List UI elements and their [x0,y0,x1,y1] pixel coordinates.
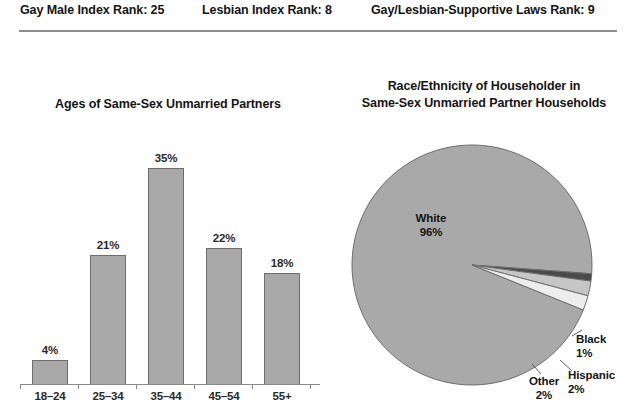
bar-45–54 [206,248,242,385]
pie-slice-label-other: Other 2% [518,374,570,402]
x-axis-tick [20,385,21,389]
bar-value-label: 21% [80,239,136,251]
x-axis-tick [252,385,253,389]
bar-column [80,149,136,385]
header-divider [19,30,617,32]
pie-slice-value-black: 1% [576,346,624,360]
pie-slice-label-hispanic: Hispanic 2% [568,368,624,396]
bar-35–44 [148,168,184,385]
bar-value-label: 18% [254,257,310,269]
pie-slice-name-hispanic: Hispanic [568,369,615,381]
x-axis-tick [194,385,195,389]
bar-category-label: 35–44 [138,390,194,402]
bar-chart-x-axis [20,384,320,385]
bar-55+ [264,273,300,385]
bar-value-label: 4% [22,344,78,356]
bar-category-label: 25–34 [80,390,136,402]
bar-column [196,149,252,385]
header-lesbian-index-rank: Lesbian Index Rank: 8 [202,2,332,18]
pie-slice-name-other: Other [529,375,559,387]
pie-slice-value-other: 2% [518,388,570,402]
bar-category-label: 45–54 [196,390,252,402]
bar-category-label: 55+ [254,390,310,402]
x-axis-tick [310,385,311,389]
bar-value-label: 22% [196,232,252,244]
x-axis-tick [136,385,137,389]
header-supportive-laws-rank: Gay/Lesbian-Supportive Laws Rank: 9 [371,2,595,18]
bar-column [138,149,194,385]
bar-chart-title: Ages of Same-Sex Unmarried Partners [10,96,326,113]
header-bar: Gay Male Index Rank: 25 Lesbian Index Ra… [0,0,632,34]
header-gay-male-index-rank: Gay Male Index Rank: 25 [20,2,164,18]
pie-slice-label-white: White 96% [396,211,466,239]
x-axis-tick [78,385,79,389]
bar-category-label: 18–24 [22,390,78,402]
bar-25–34 [90,255,126,385]
pie-slice-name-white: White [416,212,447,224]
pie-slice-label-black: Black 1% [576,332,624,360]
pie-chart: Race/Ethnicity of Householder in Same-Se… [336,34,632,403]
bar-value-label: 35% [138,152,194,164]
pie-slice-value-hispanic: 2% [568,382,624,396]
bar-chart: Ages of Same-Sex Unmarried Partners 4%18… [0,34,336,403]
bar-18–24 [32,360,68,385]
pie-slice-value-white: 96% [396,225,466,239]
pie-slice-name-black: Black [576,333,606,345]
